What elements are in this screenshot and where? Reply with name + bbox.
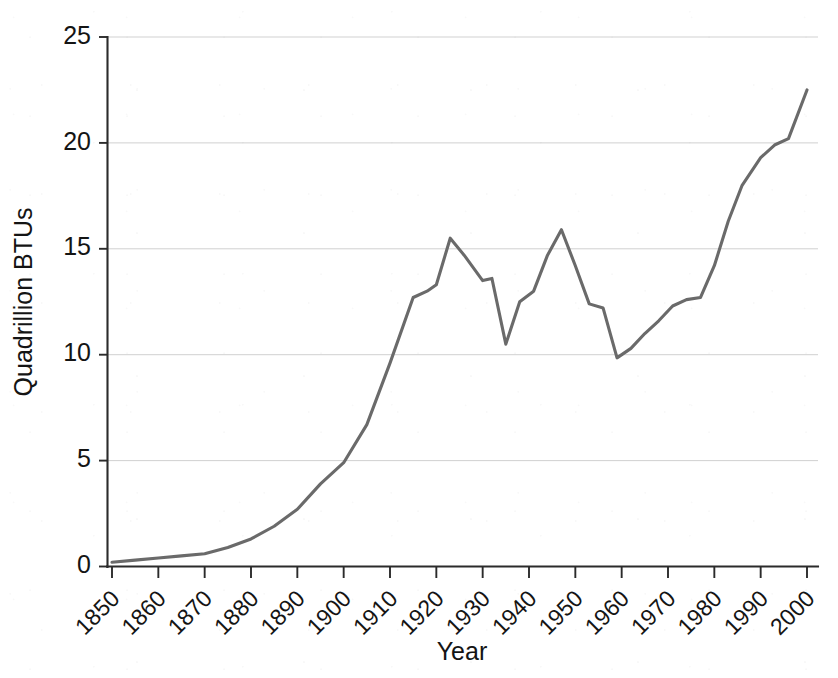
- chart-figure: 0510152025 18501860187018801890190019101…: [0, 0, 838, 678]
- x-axis-title: Year: [437, 637, 488, 665]
- y-tick-label-20: 20: [63, 127, 91, 155]
- line-chart: 0510152025 18501860187018801890190019101…: [0, 0, 838, 678]
- y-axis-title: Quadrillion BTUs: [9, 208, 37, 397]
- chart-background: [0, 0, 838, 678]
- y-tick-label-10: 10: [63, 338, 91, 366]
- y-tick-label-25: 25: [63, 21, 91, 49]
- y-tick-label-5: 5: [77, 444, 91, 472]
- y-tick-label-0: 0: [77, 550, 91, 578]
- y-tick-label-15: 15: [63, 232, 91, 260]
